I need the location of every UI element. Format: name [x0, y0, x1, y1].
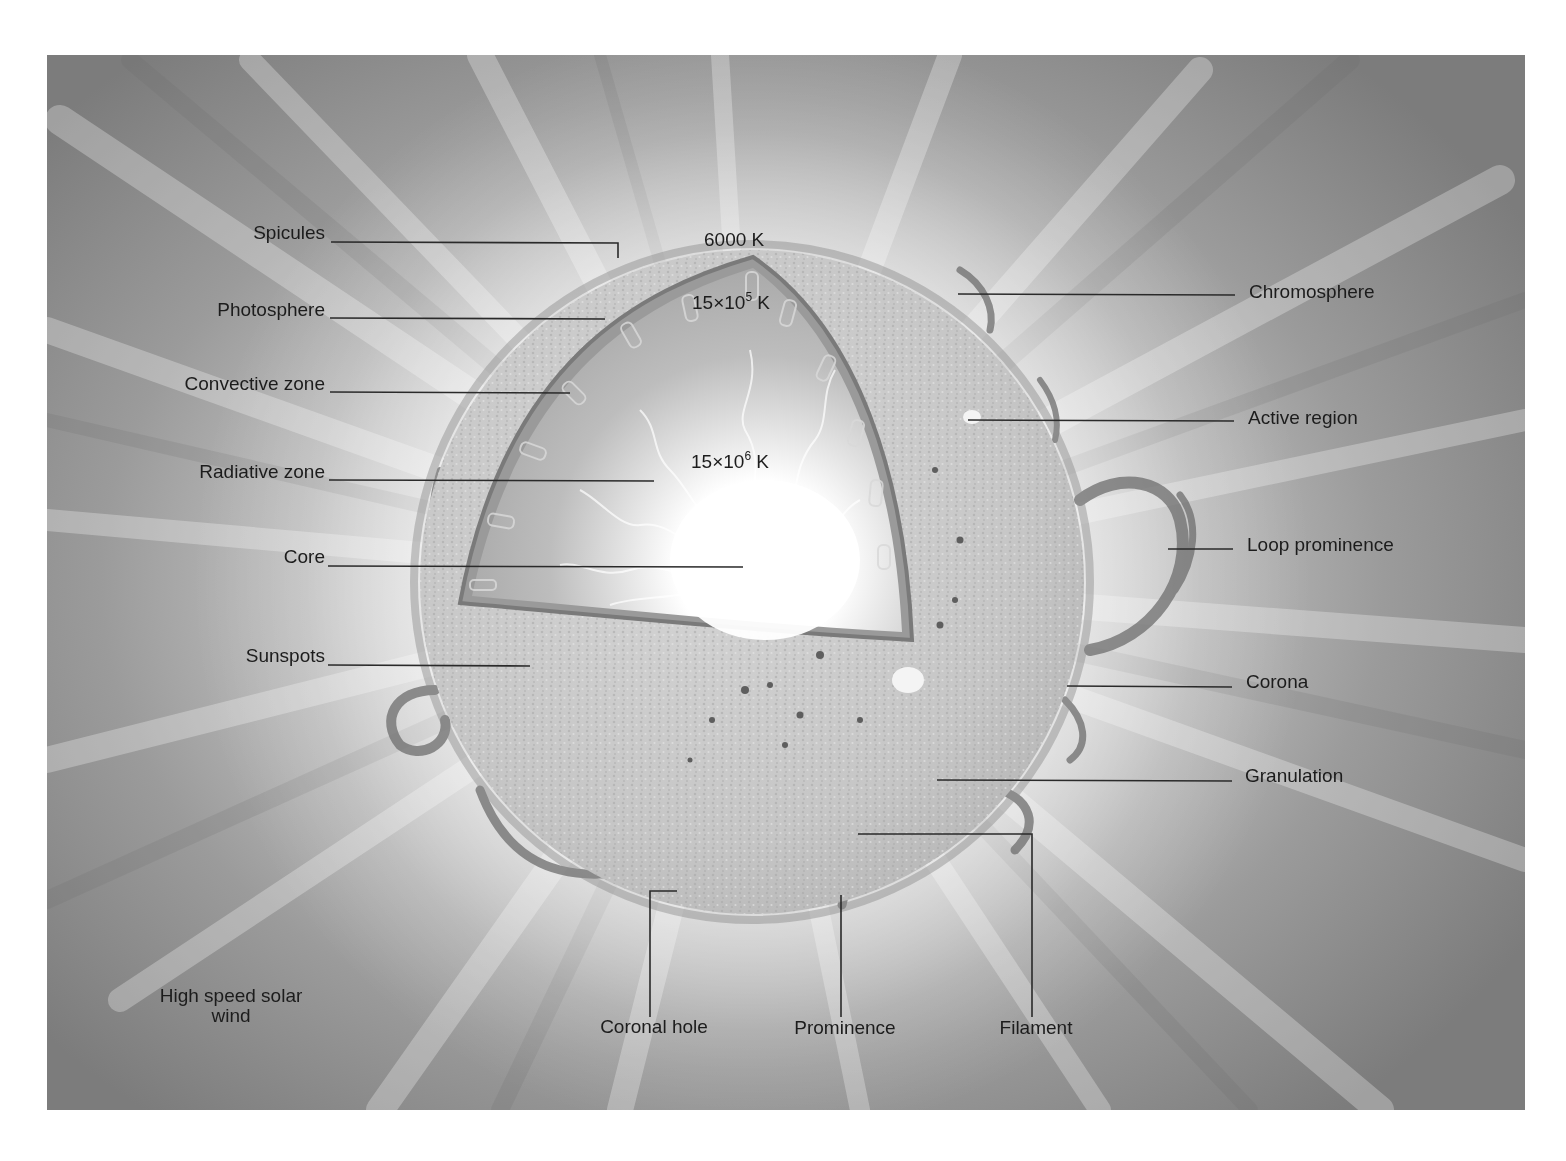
label-photosphere: Photosphere [217, 299, 325, 321]
temp-core-exponent: 6 [744, 449, 751, 463]
temp-surface: 6000 K [704, 229, 764, 251]
temp-surface-value: 6000 K [704, 229, 764, 250]
temp-core: 15×106 K [691, 446, 769, 473]
temp-convective-mantissa: 15×10 [692, 292, 745, 313]
label-core: Core [284, 546, 325, 568]
label-chromosphere: Chromosphere [1249, 281, 1375, 303]
label-spicules: Spicules [253, 222, 325, 244]
core-glow [670, 480, 860, 640]
temp-core-mantissa: 15×10 [691, 451, 744, 472]
temp-core-unit: K [751, 451, 769, 472]
label-prominence: Prominence [794, 1017, 895, 1039]
temp-convective-base: 15×105 K [692, 287, 770, 314]
label-radiative-zone: Radiative zone [199, 461, 325, 483]
diagram-frame [47, 55, 1525, 1110]
temp-convective-exponent: 5 [745, 290, 752, 304]
label-filament: Filament [1000, 1017, 1073, 1039]
label-high-speed-solar-wind: High speed solar wind [145, 986, 317, 1026]
label-loop-prominence: Loop prominence [1247, 534, 1394, 556]
label-corona: Corona [1246, 671, 1308, 693]
label-coronal-hole: Coronal hole [600, 1016, 708, 1038]
label-granulation: Granulation [1245, 765, 1343, 787]
label-sunspots: Sunspots [246, 645, 325, 667]
label-convective-zone: Convective zone [185, 373, 325, 395]
sun-illustration [47, 55, 1525, 1110]
label-active-region: Active region [1248, 407, 1358, 429]
temp-convective-unit: K [752, 292, 770, 313]
